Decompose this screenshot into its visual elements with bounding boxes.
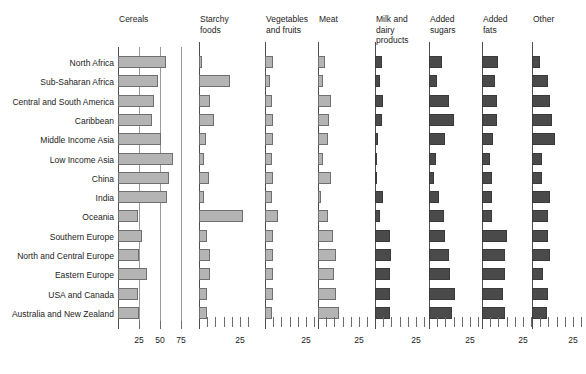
bar xyxy=(532,56,540,68)
bar xyxy=(532,230,548,242)
axis-top-tick xyxy=(532,42,533,47)
axis-minor-tick xyxy=(548,317,549,327)
bar xyxy=(532,153,542,165)
bar xyxy=(532,249,550,261)
bar xyxy=(532,288,548,300)
bar xyxy=(532,268,543,280)
bar xyxy=(532,172,542,184)
bar xyxy=(532,95,550,107)
bar xyxy=(532,133,555,145)
bar xyxy=(532,75,548,87)
axis-minor-tick xyxy=(581,317,582,327)
axis-tick-label: 25 xyxy=(568,335,577,345)
axis-minor-tick xyxy=(573,317,574,327)
axis-minor-tick xyxy=(557,317,558,327)
bar xyxy=(532,114,552,126)
axis-minor-tick xyxy=(540,317,541,327)
panel-title: Other xyxy=(533,14,586,25)
bar xyxy=(532,191,550,203)
axis-minor-tick xyxy=(565,317,566,327)
bar xyxy=(532,210,548,222)
